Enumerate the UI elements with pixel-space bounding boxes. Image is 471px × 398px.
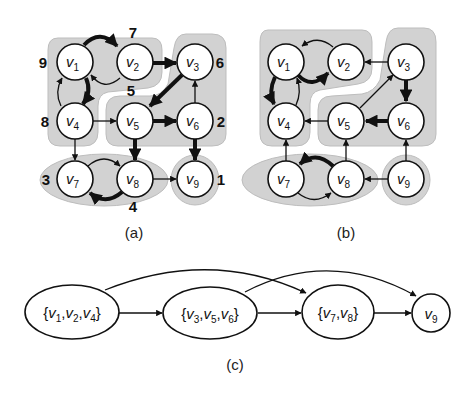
node-b-v1: v1: [268, 44, 304, 80]
caption-a: (a): [125, 224, 143, 241]
node-b-v6: v6: [388, 103, 424, 139]
scc-figure: v1 v2 v3 v4 v5 v6 v7 v8 v9 9 7 6 8 5 2 3…: [0, 0, 471, 398]
node-b-v3: v3: [388, 44, 424, 80]
node-b-v8: v8: [328, 161, 364, 197]
node-b-v5: v5: [328, 103, 364, 139]
condensed-node-v1-v2-v4: {v1,v2,v4}: [25, 285, 119, 339]
panel-a: v1 v2 v3 v4 v5 v6 v7 v8 v9 9 7 6 8 5 2 3…: [39, 24, 226, 241]
order-label-v8: 4: [129, 198, 138, 215]
node-a-v9: v9: [177, 161, 213, 197]
node-a-v4: v4: [57, 103, 93, 139]
order-label-v1: 9: [39, 54, 47, 71]
node-a-v7: v7: [57, 161, 93, 197]
order-label-v3: 6: [216, 54, 224, 71]
order-label-v5: 5: [127, 82, 135, 99]
order-label-v2: 7: [129, 24, 137, 41]
caption-c: (c): [226, 356, 244, 373]
order-label-v6: 2: [217, 113, 225, 130]
node-b-v2: v2: [328, 44, 364, 80]
panel-b: v1 v2 v3 v4 v5 v6 v7 v8 v9 (b): [242, 28, 436, 241]
node-a-v3: v3: [177, 44, 213, 80]
condensed-node-v9: v9: [412, 294, 450, 332]
node-a-v2: v2: [117, 44, 153, 80]
panel-c: {v1,v2,v4} {v3,v5,v6} {v7,v8} v9 (c): [25, 270, 450, 373]
node-a-v6: v6: [177, 103, 213, 139]
node-b-v7: v7: [268, 161, 304, 197]
caption-b: (b): [337, 224, 355, 241]
condensed-node-v3-v5-v6: {v3,v5,v6}: [163, 287, 257, 339]
condensed-node-v7-v8: {v7,v8}: [302, 285, 374, 339]
node-b-v9: v9: [388, 161, 424, 197]
order-label-v4: 8: [41, 113, 49, 130]
order-label-v7: 3: [42, 171, 50, 188]
order-label-v9: 1: [217, 171, 225, 188]
node-b-v4: v4: [268, 103, 304, 139]
node-a-v1: v1: [57, 44, 93, 80]
node-a-v5: v5: [117, 103, 153, 139]
node-a-v8: v8: [117, 161, 153, 197]
